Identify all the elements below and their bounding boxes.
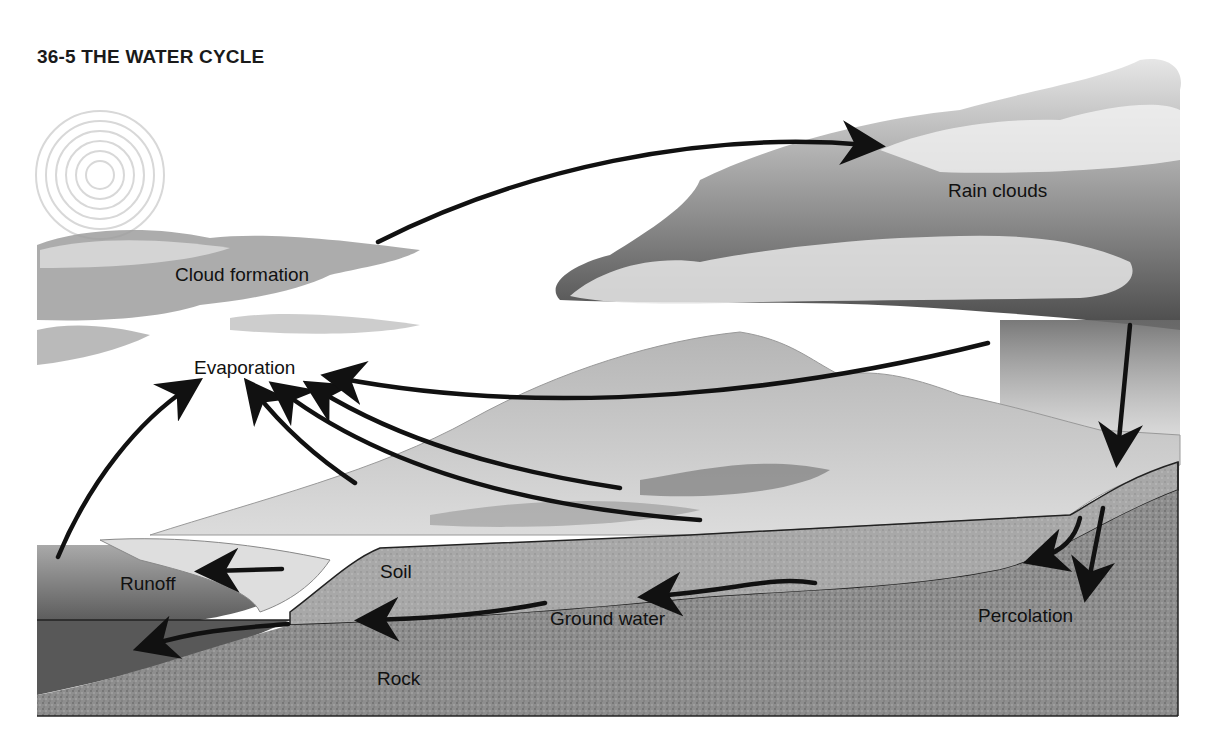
label-soil: Soil (380, 561, 412, 583)
water-cycle-illustration (0, 0, 1218, 756)
cloud-formation-clouds (37, 230, 420, 365)
label-cloud-formation: Cloud formation (175, 264, 309, 286)
arrow-runoff (212, 569, 282, 571)
label-percolation: Percolation (978, 605, 1073, 627)
label-evaporation: Evaporation (194, 357, 295, 379)
rain-clouds (556, 59, 1181, 330)
label-rock: Rock (377, 668, 420, 690)
label-runoff: Runoff (120, 573, 176, 595)
label-rain-clouds: Rain clouds (948, 180, 1047, 202)
sun-icon (36, 111, 164, 239)
label-ground-water: Ground water (550, 608, 665, 630)
